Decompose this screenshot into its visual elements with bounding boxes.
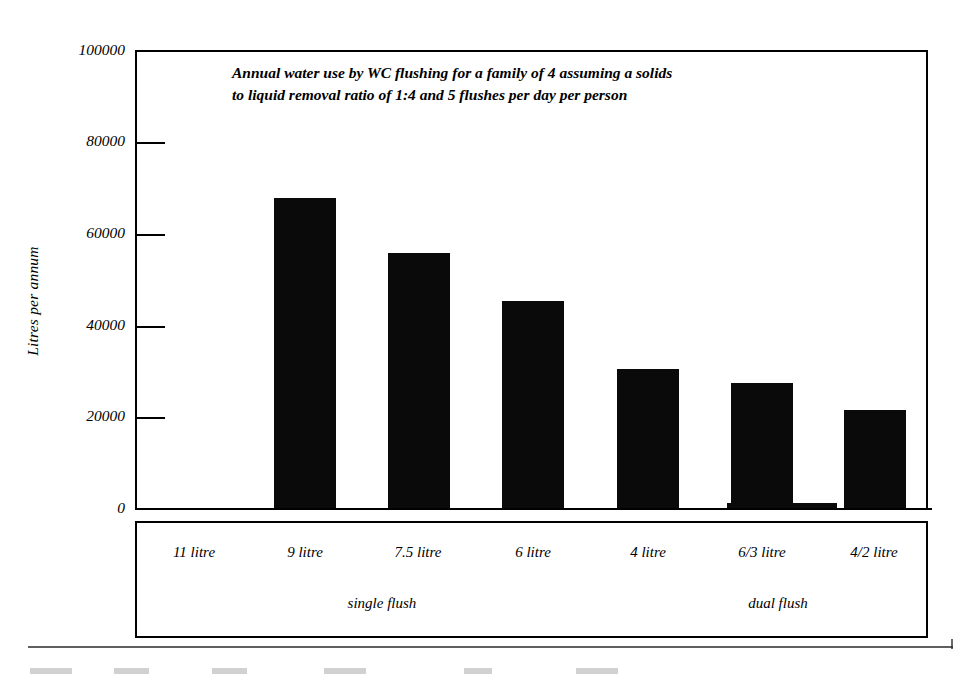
y-tick-label-0: 0 — [20, 499, 125, 517]
chart-title-annotation: Annual water use by WC flushing for a fa… — [232, 62, 872, 107]
bar-9-litre — [274, 198, 336, 508]
y-tick-mark-20000 — [137, 417, 165, 419]
category-label-4-2-litre: 4/2 litre — [850, 544, 897, 561]
x-axis-baseline — [135, 508, 932, 510]
category-label-6-litre: 6 litre — [515, 544, 551, 561]
bar-6-litre — [502, 301, 564, 508]
y-tick-label-60000: 60000 — [20, 224, 125, 242]
category-band: 11 litre 9 litre 7.5 litre 6 litre 4 lit… — [135, 521, 928, 638]
bar-chart-figure: Litres per annum 100000 80000 60000 4000… — [0, 0, 970, 675]
bar-4-litre — [617, 369, 679, 508]
category-label-4-litre: 4 litre — [630, 544, 666, 561]
bar-6-3-litre — [731, 383, 793, 508]
y-tick-mark-80000 — [137, 142, 165, 144]
chart-title-line-2: to liquid removal ratio of 1:4 and 5 flu… — [232, 84, 872, 106]
page-rule-line — [28, 646, 953, 648]
bar-7.5-litre — [388, 253, 450, 508]
plot-area: Annual water use by WC flushing for a fa… — [135, 50, 928, 508]
page-rule-end-tick — [951, 639, 953, 649]
category-label-6-3-litre: 6/3 litre — [738, 544, 785, 561]
category-label-9-litre: 9 litre — [287, 544, 323, 561]
y-tick-mark-40000 — [137, 326, 165, 328]
category-label-7.5-litre: 7.5 litre — [395, 544, 442, 561]
baseline-thickening-artifact — [727, 503, 837, 508]
page-caption-smudge — [30, 668, 730, 674]
group-label-dual-flush: dual flush — [748, 595, 808, 612]
y-tick-label-80000: 80000 — [20, 132, 125, 150]
y-tick-label-40000: 40000 — [20, 316, 125, 334]
y-axis-tick-labels: 100000 80000 60000 40000 20000 0 — [20, 0, 125, 675]
y-tick-mark-60000 — [137, 234, 165, 236]
category-label-11-litre: 11 litre — [173, 544, 215, 561]
chart-title-line-1: Annual water use by WC flushing for a fa… — [232, 62, 872, 84]
y-tick-label-20000: 20000 — [20, 407, 125, 425]
group-label-single-flush: single flush — [348, 595, 417, 612]
y-tick-label-100000: 100000 — [20, 41, 125, 59]
bar-4-2-litre — [844, 410, 906, 508]
